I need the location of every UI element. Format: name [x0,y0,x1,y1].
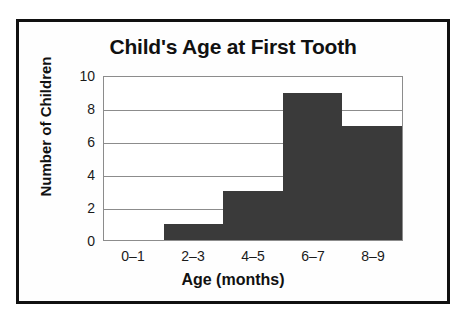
bar-slot [342,77,402,240]
bar [223,191,283,240]
bar-slot [283,77,343,240]
x-axis-tick-label: 8–9 [343,248,403,264]
x-axis-tick-label: 4–5 [223,248,283,264]
bar-series [104,77,402,240]
bar-slot [164,77,224,240]
y-axis-tick-label: 4 [65,168,95,182]
bar [342,126,402,240]
bar-slot [104,77,164,240]
y-axis-tick-label: 10 [65,69,95,83]
y-axis-tick-label: 2 [65,201,95,215]
x-axis-tick-label: 6–7 [283,248,343,264]
y-axis-title: Number of Children [37,37,54,217]
bar [164,224,224,240]
x-axis-tick-label: 0–1 [103,248,163,264]
x-axis-tick-labels: 0–12–34–56–78–9 [103,248,403,264]
y-axis-tick-label: 8 [65,102,95,116]
plot-area [103,76,403,241]
bar-slot [223,77,283,240]
y-axis-tick-label: 0 [65,234,95,248]
x-axis-tick-label: 2–3 [163,248,223,264]
x-axis-title: Age (months) [19,271,447,289]
y-axis-tick-label: 6 [65,135,95,149]
bar [283,93,343,240]
chart-frame: Child's Age at First Tooth Number of Chi… [16,19,450,304]
chart-title: Child's Age at First Tooth [19,35,447,59]
